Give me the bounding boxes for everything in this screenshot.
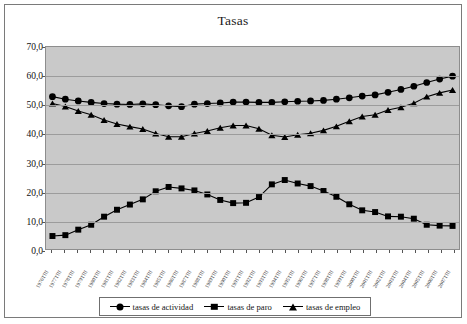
data-point-marker bbox=[346, 118, 353, 124]
data-point-marker bbox=[437, 223, 443, 229]
y-axis-tick-label: 10,0 bbox=[7, 217, 43, 227]
data-point-marker bbox=[307, 98, 314, 105]
data-point-marker bbox=[411, 216, 417, 222]
x-axis-tick-mark bbox=[51, 250, 52, 253]
series-layer bbox=[46, 47, 459, 249]
data-point-marker bbox=[320, 97, 327, 104]
data-point-marker bbox=[281, 98, 288, 105]
legend-item-label: tasas de actividad bbox=[133, 302, 194, 312]
data-point-marker bbox=[449, 87, 456, 93]
x-axis-tick-mark bbox=[103, 250, 104, 253]
gridline bbox=[46, 134, 459, 135]
x-axis-tick-mark bbox=[233, 250, 234, 253]
data-point-marker bbox=[101, 214, 107, 220]
x-axis-tick-mark bbox=[298, 250, 299, 253]
x-axis-tick-label: 2007TIII bbox=[437, 269, 452, 289]
series-line bbox=[52, 90, 452, 137]
data-point-marker bbox=[269, 181, 275, 187]
data-point-marker bbox=[88, 112, 95, 118]
x-axis-tick-mark bbox=[142, 250, 143, 253]
chart-screenshot: Tasas 0,010,020,030,040,050,060,070,0 19… bbox=[0, 0, 467, 324]
data-point-marker bbox=[333, 194, 339, 200]
y-axis-tick-label: 50,0 bbox=[7, 100, 43, 110]
x-axis-tick-mark bbox=[259, 250, 260, 253]
x-axis-tick-mark bbox=[441, 250, 442, 253]
x-axis-tick-mark bbox=[90, 250, 91, 253]
x-axis-tick-mark bbox=[389, 250, 390, 253]
data-point-marker bbox=[295, 181, 301, 187]
y-axis-tick-label: 40,0 bbox=[7, 129, 43, 139]
data-point-marker bbox=[49, 233, 55, 239]
series-square bbox=[49, 177, 455, 239]
data-point-marker bbox=[230, 200, 236, 206]
data-point-marker bbox=[75, 108, 82, 114]
data-point-marker bbox=[140, 196, 146, 202]
x-axis-tick-mark bbox=[64, 250, 65, 253]
legend-marker-circle-icon bbox=[110, 302, 130, 312]
x-axis-tick-mark bbox=[181, 250, 182, 253]
data-point-marker bbox=[308, 183, 314, 189]
data-point-marker bbox=[333, 96, 340, 103]
y-axis: 0,010,020,030,040,050,060,070,0 bbox=[5, 46, 43, 250]
chart-title: Tasas bbox=[5, 13, 461, 29]
plot-area bbox=[45, 46, 460, 250]
series-line bbox=[52, 76, 452, 107]
gridline bbox=[46, 164, 459, 165]
data-point-marker bbox=[166, 184, 172, 190]
gridline bbox=[46, 222, 459, 223]
x-axis-tick-mark bbox=[350, 250, 351, 253]
data-point-marker bbox=[423, 79, 430, 86]
legend-item[interactable]: tasas de paro bbox=[204, 302, 271, 312]
x-axis-tick-mark bbox=[376, 250, 377, 253]
data-point-marker bbox=[62, 96, 69, 103]
gridline bbox=[46, 193, 459, 194]
x-axis-tick-mark bbox=[311, 250, 312, 253]
legend-marker-triangle-icon bbox=[283, 302, 303, 312]
x-axis-tick-mark bbox=[194, 250, 195, 253]
data-point-marker bbox=[75, 227, 81, 233]
data-point-marker bbox=[346, 201, 352, 207]
y-axis-tick-label: 20,0 bbox=[7, 188, 43, 198]
data-point-marker bbox=[333, 123, 340, 129]
data-point-marker bbox=[436, 90, 443, 96]
data-point-marker bbox=[398, 214, 404, 220]
series-triangle bbox=[49, 87, 456, 140]
legend-item-label: tasas de paro bbox=[227, 302, 271, 312]
x-axis-tick-mark bbox=[285, 250, 286, 253]
data-point-marker bbox=[243, 200, 249, 206]
gridline bbox=[46, 105, 459, 106]
data-point-marker bbox=[423, 94, 430, 100]
x-axis-tick-mark bbox=[207, 250, 208, 253]
data-point-marker bbox=[385, 213, 391, 219]
chart-legend: tasas de actividadtasas de parotasas de … bbox=[99, 297, 371, 316]
x-axis-tick-mark bbox=[246, 250, 247, 253]
data-point-marker bbox=[398, 86, 405, 93]
data-point-marker bbox=[179, 185, 185, 191]
x-axis-tick-mark bbox=[129, 250, 130, 253]
data-point-marker bbox=[346, 94, 353, 101]
x-axis-tick-mark bbox=[428, 250, 429, 253]
x-axis-tick-mark bbox=[337, 250, 338, 253]
legend-item[interactable]: tasas de actividad bbox=[110, 302, 194, 312]
data-point-marker bbox=[217, 197, 223, 203]
x-axis-tick-mark bbox=[454, 250, 455, 253]
y-axis-tick-label: 0,0 bbox=[7, 246, 43, 256]
data-point-marker bbox=[49, 93, 56, 100]
data-point-marker bbox=[359, 93, 366, 100]
data-point-marker bbox=[114, 207, 120, 213]
x-axis-tick-mark bbox=[116, 250, 117, 253]
data-point-marker bbox=[359, 207, 365, 213]
data-point-marker bbox=[372, 209, 378, 215]
series-line bbox=[52, 180, 452, 236]
x-axis-tick-mark bbox=[415, 250, 416, 253]
data-point-marker bbox=[114, 101, 121, 108]
x-axis-tick-mark bbox=[168, 250, 169, 253]
y-axis-tick-label: 70,0 bbox=[7, 42, 43, 52]
x-axis-tick-mark bbox=[155, 250, 156, 253]
data-point-marker bbox=[294, 98, 301, 105]
x-axis-tick-mark bbox=[363, 250, 364, 253]
legend-item[interactable]: tasas de empleo bbox=[283, 302, 360, 312]
y-axis-tick-label: 30,0 bbox=[7, 159, 43, 169]
x-axis-tick-mark bbox=[220, 250, 221, 253]
x-axis-tick-mark bbox=[324, 250, 325, 253]
